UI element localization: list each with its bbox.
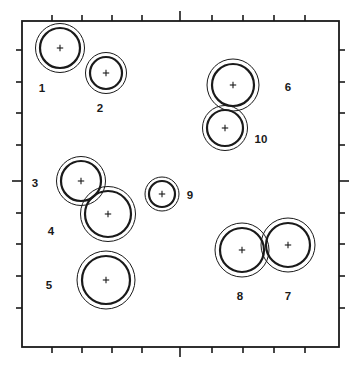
axes-frame [22, 21, 339, 347]
plus-icon-5 [103, 277, 109, 283]
cluster-circles [36, 24, 316, 310]
cluster-label-4: 4 [48, 225, 55, 237]
cluster-label-3: 3 [32, 177, 38, 189]
plus-icon-9 [159, 191, 165, 197]
plus-icon-8 [239, 247, 245, 253]
cluster-label-1: 1 [39, 82, 46, 94]
plus-icon-4 [105, 211, 111, 217]
cluster-label-6: 6 [285, 81, 291, 93]
axis-ticks [12, 11, 349, 357]
plot-frame-rect [22, 21, 339, 347]
cluster-label-8: 8 [237, 290, 244, 302]
plus-icon-1 [57, 45, 63, 51]
cluster-label-5: 5 [46, 279, 53, 291]
plot-canvas: 12345678910 [0, 0, 353, 366]
plus-icon-10 [222, 125, 228, 131]
plus-icon-6 [230, 82, 236, 88]
plus-icon-7 [285, 242, 291, 248]
cluster-label-2: 2 [97, 102, 103, 114]
cluster-label-7: 7 [285, 290, 291, 302]
cluster-label-10: 10 [255, 133, 268, 145]
plus-icon-2 [103, 70, 109, 76]
cluster-label-9: 9 [187, 189, 193, 201]
plus-icon-3 [78, 178, 84, 184]
scatter-figure: 12345678910 [0, 0, 353, 366]
